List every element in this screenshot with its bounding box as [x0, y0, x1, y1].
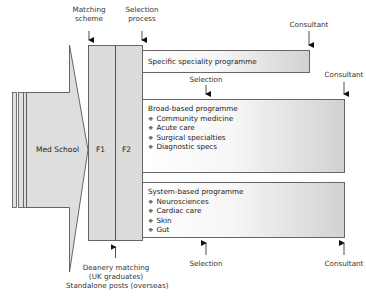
deanery-line2: (UK graduates) [66, 272, 166, 281]
bullet-icon: ❖ [148, 207, 153, 214]
programme-title: Specific speciality programme [148, 57, 309, 66]
consultant-label-broad: Consultant [318, 70, 366, 79]
selection-process-line1: Selection [122, 5, 162, 14]
list-item-text: Community medicine [156, 114, 233, 123]
list-item: ❖Cardiac care [148, 206, 344, 215]
stage-med-school: Med School [36, 145, 79, 154]
bullet-icon: ❖ [148, 134, 153, 141]
stage-f2: F2 [122, 145, 131, 154]
med-school-arrow [27, 45, 89, 272]
list-item-text: Surgical specialties [156, 133, 225, 142]
system-based-box: System-based programme ❖Neurosciences ❖C… [142, 182, 345, 238]
list-item: ❖Community medicine [148, 114, 344, 123]
selection-process-label: Selection process [122, 5, 162, 23]
consultant-label-specific: Consultant [283, 20, 335, 29]
consultant-label-system: Consultant [318, 259, 366, 268]
selection-label-broad: Selection [184, 75, 228, 84]
stage-f1: F1 [96, 145, 105, 154]
matching-scheme-line1: Matching [69, 5, 109, 14]
matching-scheme-label: Matching scheme [69, 5, 109, 23]
list-item: ❖Acute care [148, 123, 344, 132]
deanery-line3: Standalone posts (overseas) [66, 281, 166, 290]
bullet-icon: ❖ [148, 198, 153, 205]
broad-based-list: ❖Community medicine ❖Acute care ❖Surgica… [148, 114, 344, 151]
deanery-line1: Deanery matching [66, 263, 166, 272]
list-item: ❖Skin [148, 216, 344, 225]
list-item-text: Diagnostic specs [156, 142, 217, 151]
programme-title: Broad-based programme [148, 104, 344, 113]
bullet-icon: ❖ [148, 124, 153, 131]
list-item: ❖Surgical specialties [148, 133, 344, 142]
programme-title: System-based programme [148, 187, 344, 196]
bullet-icon: ❖ [148, 226, 153, 233]
selection-label-system: Selection [184, 259, 228, 268]
deanery-matching-label: Deanery matching (UK graduates) Standalo… [66, 263, 166, 290]
bullet-icon: ❖ [148, 143, 153, 150]
list-item-text: Gut [156, 225, 169, 234]
list-item-text: Neurosciences [156, 197, 208, 206]
bullet-icon: ❖ [148, 217, 153, 224]
selection-process-line2: process [122, 14, 162, 23]
med-school-stripes [13, 93, 27, 208]
matching-scheme-line2: scheme [69, 14, 109, 23]
broad-based-box: Broad-based programme ❖Community medicin… [142, 99, 345, 173]
bullet-icon: ❖ [148, 115, 153, 122]
specific-speciality-box: Specific speciality programme [142, 50, 310, 73]
list-item-text: Skin [156, 216, 171, 225]
list-item: ❖Neurosciences [148, 197, 344, 206]
list-item-text: Cardiac care [156, 206, 201, 215]
list-item: ❖Gut [148, 225, 344, 234]
list-item: ❖Diagnostic specs [148, 142, 344, 151]
list-item-text: Acute care [156, 123, 194, 132]
system-based-list: ❖Neurosciences ❖Cardiac care ❖Skin ❖Gut [148, 197, 344, 234]
